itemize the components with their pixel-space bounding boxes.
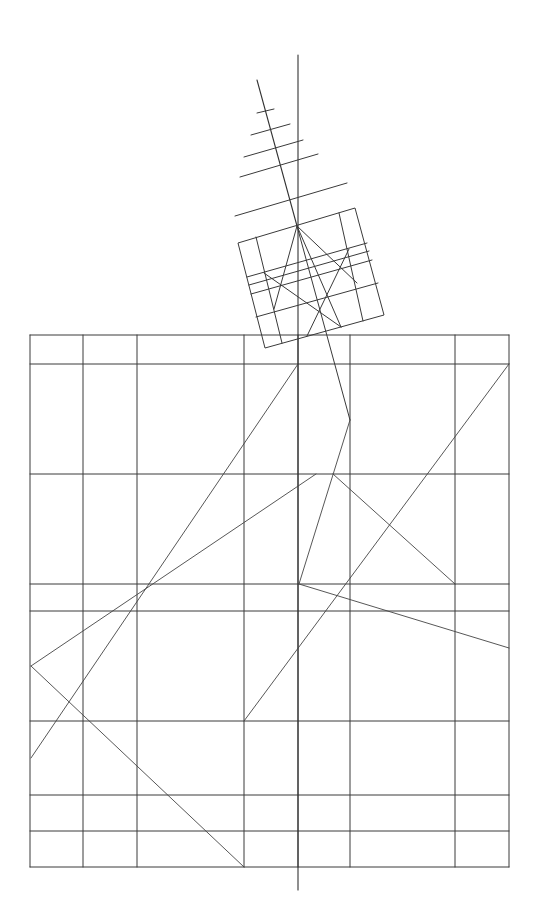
composition-line — [31, 474, 316, 666]
composition-line — [31, 364, 298, 758]
square-inner-line — [339, 213, 363, 321]
crossbar-line — [240, 154, 318, 177]
main-grid — [30, 335, 509, 867]
crossbar-line — [251, 124, 290, 135]
line-drawing-canvas — [0, 0, 539, 920]
composition-line — [244, 364, 509, 721]
composition-line — [299, 584, 509, 648]
composition-line — [299, 420, 350, 584]
rotated-square — [238, 208, 384, 420]
crossbar-line — [244, 140, 303, 157]
composition-lines — [31, 364, 509, 867]
crossbars — [235, 109, 347, 216]
composition-line — [333, 474, 455, 584]
crossbar-line — [235, 183, 347, 216]
square-inner-line — [274, 226, 297, 309]
